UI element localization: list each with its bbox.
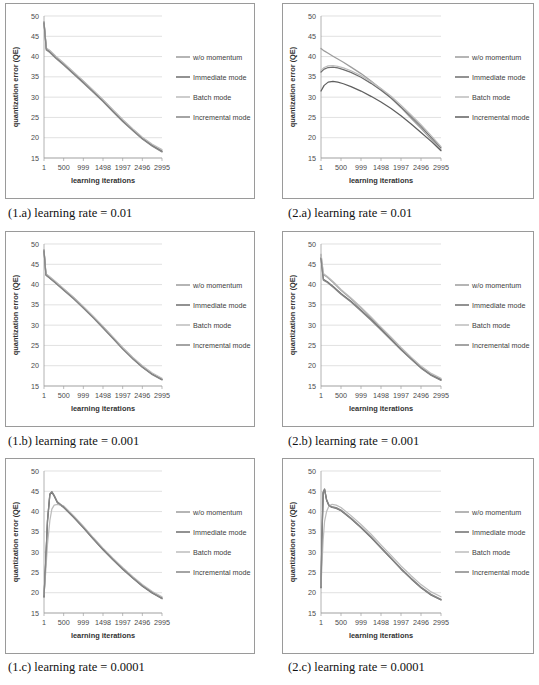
series-group — [321, 48, 441, 150]
y-tick-label: 15 — [308, 382, 316, 391]
chart-canvas-1b: 152025303540455015009991498199724962995l… — [6, 232, 254, 426]
y-tick-label: 50 — [308, 467, 316, 476]
x-axis-title: learning iterations — [349, 631, 413, 640]
panel-caption-2b: (2.b) learning rate = 0.001 — [288, 434, 539, 449]
x-tick-label: 2995 — [433, 391, 449, 400]
x-tick-label: 999 — [355, 391, 367, 400]
x-tick-label: 1997 — [115, 391, 131, 400]
x-tick-label: 500 — [335, 618, 347, 627]
chart-panel-2a: 152025303540455015009991498199724962995l… — [282, 3, 534, 199]
y-tick-label: 15 — [31, 382, 39, 391]
y-tick-label: 25 — [31, 341, 39, 350]
y-tick-label: 30 — [308, 321, 316, 330]
x-tick-label: 1498 — [95, 618, 111, 627]
y-tick-label: 45 — [31, 487, 39, 496]
legend-label-3: Incremental mode — [472, 341, 530, 350]
x-tick-label: 1 — [42, 391, 46, 400]
svg-text:quantization error (QE): quantization error (QE) — [288, 274, 297, 355]
series-line-3 — [44, 492, 162, 599]
series-line-1 — [44, 250, 162, 379]
legend: w/o momentumImmediate modeBatch modeIncr… — [455, 508, 530, 577]
series-line-1 — [321, 258, 441, 380]
legend-label-0: w/o momentum — [192, 508, 242, 517]
chart-frame-1b: 152025303540455015009991498199724962995l… — [5, 231, 255, 427]
chart-canvas-2c: 152025303540455015009991498199724962995l… — [283, 459, 533, 653]
x-tick-label: 500 — [58, 618, 70, 627]
y-tick-label: 45 — [308, 487, 316, 496]
y-tick-label: 45 — [308, 32, 316, 41]
x-axis-title: learning iterations — [349, 404, 413, 413]
legend-label-3: Incremental mode — [193, 341, 251, 350]
series-group — [44, 492, 162, 599]
chart-frame-1c: 152025303540455015009991498199724962995l… — [5, 458, 255, 654]
x-tick-label: 2496 — [413, 163, 429, 172]
chart-panel-1c: 152025303540455015009991498199724962995l… — [5, 458, 255, 654]
y-tick-label: 25 — [31, 568, 39, 577]
series-line-3 — [44, 251, 162, 380]
y-tick-label: 50 — [308, 12, 316, 21]
legend-label-0: w/o momentum — [471, 53, 521, 62]
y-tick-label: 25 — [308, 113, 316, 122]
legend-label-0: w/o momentum — [471, 508, 521, 517]
y-tick-label: 35 — [31, 72, 39, 81]
chart-panel-1a: 152025303540455015009991498199724962995l… — [5, 3, 255, 199]
legend-label-2: Batch mode — [193, 548, 231, 557]
panel-caption-2c: (2.c) learning rate = 0.0001 — [288, 660, 539, 675]
x-tick-label: 999 — [77, 618, 89, 627]
y-tick-label: 50 — [31, 467, 39, 476]
x-tick-label: 500 — [58, 391, 70, 400]
series-line-0 — [44, 22, 162, 151]
series-group — [321, 254, 441, 380]
legend: w/o momentumImmediate modeBatch modeIncr… — [455, 281, 530, 350]
y-tick-label: 45 — [31, 260, 39, 269]
series-line-1 — [44, 492, 162, 598]
svg-text:quantization error (QE): quantization error (QE) — [11, 501, 20, 582]
x-tick-label: 2995 — [154, 163, 170, 172]
series-line-2 — [321, 504, 441, 597]
chart-canvas-1c: 152025303540455015009991498199724962995l… — [6, 459, 254, 653]
legend-label-3: Incremental mode — [193, 568, 251, 577]
x-tick-label: 1 — [319, 391, 323, 400]
legend-label-2: Batch mode — [193, 93, 231, 102]
x-axis-title: learning iterations — [71, 176, 135, 185]
legend-label-2: Batch mode — [472, 93, 510, 102]
x-tick-label: 2496 — [413, 618, 429, 627]
series-group — [321, 489, 441, 600]
chart-frame-2c: 152025303540455015009991498199724962995l… — [282, 458, 534, 654]
legend-label-2: Batch mode — [472, 548, 510, 557]
x-tick-label: 1997 — [393, 618, 409, 627]
x-tick-label: 2995 — [154, 391, 170, 400]
y-axis-title: quantization error (QE) — [11, 501, 20, 582]
legend-label-2: Batch mode — [472, 321, 510, 330]
legend-label-3: Incremental mode — [472, 568, 530, 577]
y-axis-title: quantization error (QE) — [11, 274, 20, 355]
chart-frame-2a: 152025303540455015009991498199724962995l… — [282, 3, 534, 199]
x-tick-label: 2995 — [433, 618, 449, 627]
y-tick-label: 40 — [308, 507, 316, 516]
y-tick-label: 30 — [308, 93, 316, 102]
panel-caption-1c: (1.c) learning rate = 0.0001 — [8, 660, 258, 675]
series-line-2 — [44, 250, 162, 378]
svg-text:quantization error (QE): quantization error (QE) — [288, 46, 297, 127]
y-tick-label: 20 — [308, 588, 316, 597]
y-tick-label: 20 — [31, 133, 39, 142]
y-axis-title: quantization error (QE) — [288, 46, 297, 127]
y-tick-label: 45 — [31, 32, 39, 41]
x-tick-label: 2995 — [433, 163, 449, 172]
x-tick-label: 2496 — [413, 391, 429, 400]
series-line-0 — [44, 250, 162, 379]
series-line-0 — [44, 492, 162, 598]
y-tick-label: 35 — [308, 72, 316, 81]
x-axis-title: learning iterations — [71, 631, 135, 640]
x-tick-label: 2496 — [134, 618, 150, 627]
x-axis-title: learning iterations — [349, 176, 413, 185]
series-group — [44, 250, 162, 380]
x-tick-label: 1 — [319, 163, 323, 172]
x-tick-label: 1997 — [115, 163, 131, 172]
x-tick-label: 500 — [58, 163, 70, 172]
x-tick-label: 2496 — [134, 391, 150, 400]
x-tick-label: 1997 — [393, 391, 409, 400]
chart-frame-1a: 152025303540455015009991498199724962995l… — [5, 3, 255, 199]
x-tick-label: 2496 — [134, 163, 150, 172]
legend-label-3: Incremental mode — [472, 113, 530, 122]
